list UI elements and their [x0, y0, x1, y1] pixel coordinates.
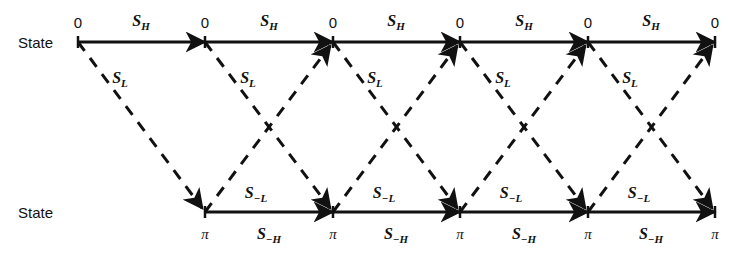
- node-label-zero: 0: [74, 14, 82, 31]
- node-label-pi: π: [456, 226, 464, 243]
- edge-label-sl: SL: [240, 69, 256, 88]
- edge-label-sh: SH: [132, 12, 149, 31]
- edge-label-sl: SL: [622, 69, 638, 88]
- edge-sl: [588, 42, 712, 208]
- edge-label-sml: S−L: [628, 184, 650, 203]
- row-label-bottom: State: [18, 204, 53, 221]
- edge-label-smh: S−H: [639, 225, 663, 244]
- edge-label-smh: S−H: [512, 225, 536, 244]
- edge-sl: [78, 42, 202, 208]
- node-label-zero: 0: [711, 14, 719, 31]
- node-label-pi: π: [329, 226, 337, 243]
- edge-label-sml: S−L: [373, 184, 395, 203]
- edge-label-sml: S−L: [245, 184, 267, 203]
- node-label-zero: 0: [201, 14, 209, 31]
- edge-label-sl: SL: [367, 69, 383, 88]
- edge-label-smh: S−H: [257, 225, 281, 244]
- edge-label-sh: SH: [387, 12, 404, 31]
- edge-label-sh: SH: [642, 12, 659, 31]
- edge-label-sl: SL: [495, 69, 511, 88]
- edge-label-sl: SL: [112, 69, 128, 88]
- edge-sml: [205, 46, 330, 212]
- edge-label-sml: S−L: [500, 184, 522, 203]
- node-label-zero: 0: [456, 14, 464, 31]
- node-label-pi: π: [584, 226, 592, 243]
- node-label-zero: 0: [584, 14, 592, 31]
- node-label-pi: π: [201, 226, 209, 243]
- trellis-diagram: StateState000000πππππSHSHSHSHSHS−HS−HS−H…: [0, 0, 743, 255]
- node-label-zero: 0: [329, 14, 337, 31]
- edge-label-sh: SH: [260, 12, 277, 31]
- edge-sml: [460, 46, 585, 212]
- node-label-pi: π: [711, 226, 719, 243]
- edge-label-smh: S−H: [384, 225, 408, 244]
- edge-label-sh: SH: [515, 12, 532, 31]
- edge-sl: [205, 42, 330, 208]
- diagram-canvas: [0, 0, 743, 255]
- edge-sl: [333, 42, 457, 208]
- edge-sl: [460, 42, 585, 208]
- row-label-top: State: [18, 34, 53, 51]
